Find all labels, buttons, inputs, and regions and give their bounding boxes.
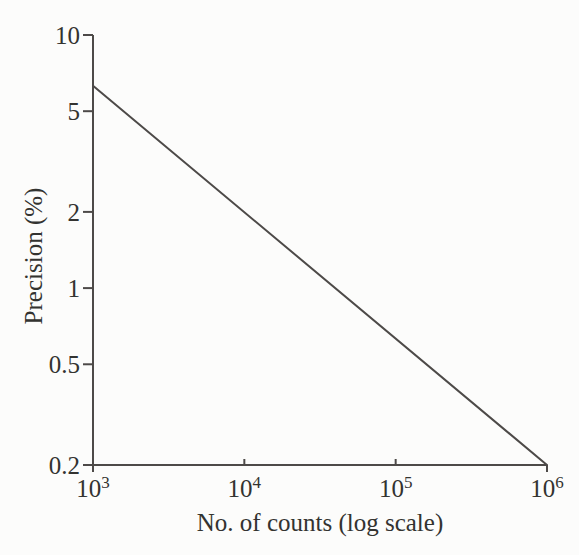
y-tick-label: 0.5 <box>49 351 80 378</box>
x-tick-exponent: 3 <box>101 473 110 492</box>
x-tick-exponent: 4 <box>253 473 262 492</box>
x-tick-label: 106 <box>530 473 564 502</box>
y-tick-label: 1 <box>68 275 81 302</box>
y-axis-title: Precision (%) <box>21 188 46 325</box>
x-tick-label: 104 <box>228 473 262 502</box>
x-tick-base: 10 <box>228 475 253 502</box>
y-tick-label: 2 <box>68 199 81 226</box>
plot-canvas: 105210.50.2103104105106 <box>0 0 579 555</box>
x-tick-base: 10 <box>379 475 404 502</box>
x-tick-base: 10 <box>530 475 555 502</box>
y-tick-label: 5 <box>68 98 81 125</box>
x-tick-label: 105 <box>379 473 413 502</box>
x-tick-label: 103 <box>76 473 110 502</box>
x-tick-exponent: 6 <box>555 473 564 492</box>
y-tick-label: 10 <box>55 22 80 49</box>
x-tick-base: 10 <box>76 475 101 502</box>
x-tick-exponent: 5 <box>404 473 413 492</box>
precision-line <box>93 86 547 465</box>
precision-vs-counts-chart: 105210.50.2103104105106 Precision (%) No… <box>0 0 579 555</box>
x-axis-title: No. of counts (log scale) <box>93 510 547 535</box>
